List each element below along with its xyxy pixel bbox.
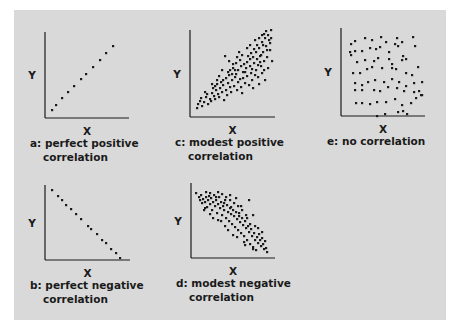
plot-caption: d: modest negative — [176, 277, 291, 289]
plot-caption: a: perfect positive — [30, 137, 139, 149]
y-axis-label: Y — [323, 66, 332, 78]
scatter-plot-e: YXe: no correlation — [323, 28, 425, 147]
plot-caption: b: perfect negative — [30, 279, 144, 291]
plot-caption: correlation — [43, 151, 108, 163]
scatter-plot-a: YXa: perfect positivecorrelation — [27, 32, 138, 163]
x-axis-label: X — [228, 124, 236, 136]
x-axis-label: X — [229, 265, 237, 277]
data-points — [196, 29, 273, 109]
data-points — [51, 189, 121, 259]
plot-caption: correlation — [189, 291, 254, 303]
y-axis-label: Y — [173, 215, 182, 227]
plot-caption: c: modest positive — [175, 136, 284, 148]
y-axis-label: Y — [172, 68, 181, 80]
x-axis-label: X — [83, 267, 91, 279]
plot-caption: correlation — [188, 150, 253, 162]
x-axis-label: X — [83, 125, 91, 137]
data-points — [349, 36, 423, 117]
scatter-plot-c: YXc: modest positivecorrelation — [172, 29, 284, 162]
y-axis-label: Y — [27, 217, 36, 229]
y-axis-label: Y — [27, 69, 36, 81]
data-points — [51, 45, 114, 111]
x-axis-label: X — [379, 123, 387, 135]
scatter-plot-b: YXb: perfect negativecorrelation — [27, 185, 143, 305]
data-points — [195, 191, 268, 253]
scatter-plot-d: YXd: modest negativecorrelation — [173, 183, 291, 303]
correlation-figure: YXa: perfect positivecorrelationYXb: per… — [0, 0, 456, 335]
plot-caption: e: no correlation — [327, 135, 425, 147]
plot-caption: correlation — [43, 293, 108, 305]
